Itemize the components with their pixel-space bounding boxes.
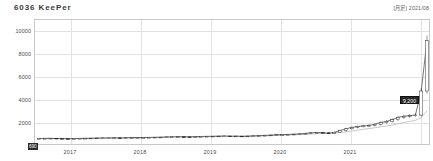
chart-period-label: [月足] 2021/08 xyxy=(394,4,429,11)
page-title: 6036 KeePer xyxy=(14,3,72,12)
y-axis-tick-label: 10000 xyxy=(1,28,31,34)
y-axis-tick-label: 8000 xyxy=(1,51,31,57)
x-axis-tick-label: 2019 xyxy=(204,149,217,155)
price-series xyxy=(35,20,430,145)
chart-header: 6036 KeePer [月足] 2021/08 xyxy=(0,0,433,18)
current-price-tag: 9,200 xyxy=(400,96,419,104)
y-axis-tick-label: 4000 xyxy=(1,97,31,103)
chart-page: 6036 KeePer [月足] 2021/08 10000 8000 6000… xyxy=(0,0,433,161)
x-axis-tick-label: 2020 xyxy=(274,149,287,155)
candlestick-group xyxy=(37,35,428,139)
plot-area[interactable] xyxy=(34,19,430,145)
x-axis-tick-label: 2018 xyxy=(134,149,147,155)
moving-average-line xyxy=(39,111,427,139)
price-line xyxy=(39,41,427,139)
x-axis-tick-label: 2021 xyxy=(344,149,357,155)
y-axis-tick-label: 2000 xyxy=(1,120,31,126)
y-axis-tick-label: 6000 xyxy=(1,74,31,80)
x-axis-tick-label: 2017 xyxy=(64,149,77,155)
start-price-tag: 690 xyxy=(28,143,38,150)
